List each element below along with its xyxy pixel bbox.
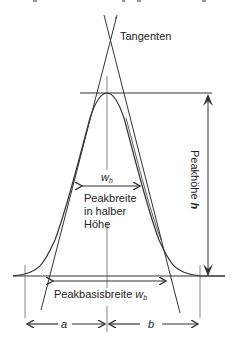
peak-diagram: Tangenten wh Peakbreite in halber Höhe P… xyxy=(0,0,236,345)
tangents-label: Tangenten xyxy=(120,30,171,42)
wh-label: wh xyxy=(101,171,113,184)
tangent-right xyxy=(104,15,180,313)
half-width-label-1: Peakbreite xyxy=(84,192,137,204)
a-label: a xyxy=(61,318,67,330)
tangent-left xyxy=(41,15,117,310)
b-label: b xyxy=(148,318,154,330)
half-width-label-2: in halber xyxy=(84,205,127,217)
peak-curve-edge xyxy=(126,118,161,240)
base-width-label: Peakbasisbreite wb xyxy=(54,288,147,301)
half-width-label-3: Höhe xyxy=(84,218,110,230)
cropped-text-fragments xyxy=(33,0,206,19)
peak-height-label: Peakhöhe h xyxy=(189,150,201,210)
